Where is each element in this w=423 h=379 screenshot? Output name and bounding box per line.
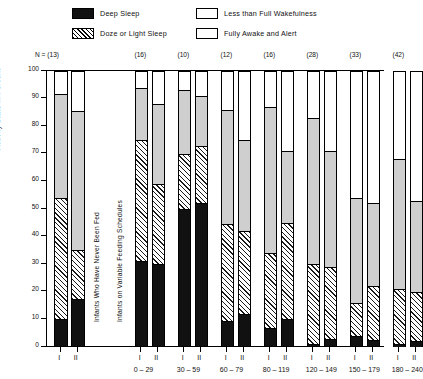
sample-size-label: (10) — [178, 52, 190, 59]
stacked-bar — [178, 71, 192, 347]
bar-segment-awake — [55, 71, 67, 94]
x-axis-sub-labels: IIIIIIIIIIIIIIIIIIIIIIII — [0, 354, 394, 366]
bar-segment-doze — [239, 231, 251, 314]
y-tick-label: 100 — [28, 66, 39, 73]
legend-swatch-less-icon — [196, 8, 218, 19]
bar-segment-doze — [72, 250, 84, 298]
legend-swatch-deep-icon — [72, 8, 94, 19]
sample-size-label: (28) — [307, 52, 319, 59]
bar-segment-doze — [196, 146, 208, 204]
y-tick-label: 70 — [32, 148, 39, 155]
x-tick-mark — [269, 347, 270, 352]
y-tick-90: 90 — [0, 98, 46, 99]
bar-segment-less — [153, 104, 165, 184]
x-sub-label-ii: II — [154, 354, 158, 361]
x-tick-mark — [77, 347, 78, 352]
x-tick-mark — [372, 347, 373, 352]
sample-size-label: (42) — [393, 52, 405, 59]
bar-segment-less — [411, 201, 423, 292]
x-sub-label-i: I — [268, 354, 270, 361]
chart-legend: Deep Sleep Doze or Light Sleep Less than… — [0, 6, 394, 48]
sample-size-label: (16) — [135, 52, 147, 59]
stacked-bar — [221, 71, 235, 347]
x-group-label: 150 – 179 — [349, 366, 380, 373]
bar-segment-less — [325, 151, 337, 267]
bar-segment-deep — [179, 209, 191, 347]
legend-label-less: Less than Full Wakefulness — [224, 10, 317, 17]
x-tick-mark — [329, 347, 330, 352]
x-tick-mark — [226, 347, 227, 352]
bar-segment-doze — [394, 289, 406, 344]
legend-swatch-doze-icon — [72, 28, 94, 39]
bar-segment-doze — [179, 154, 191, 209]
y-tick-50: 50 — [0, 208, 46, 209]
stacked-bar — [195, 71, 209, 347]
x-sub-label-ii: II — [74, 354, 78, 361]
x-sub-label-i: I — [354, 354, 356, 361]
bar-segment-awake — [265, 71, 277, 107]
bar-segment-deep — [239, 314, 251, 347]
y-tick-80: 80 — [0, 125, 46, 126]
bar-segment-awake — [368, 71, 380, 203]
x-group-label: 180 – 240 — [392, 366, 423, 373]
bar-segment-awake — [72, 71, 84, 111]
x-tick-mark — [286, 347, 287, 352]
x-group-label: 120 – 149 — [306, 366, 337, 373]
bar-segment-awake — [351, 71, 363, 198]
x-sub-label-i: I — [311, 354, 313, 361]
x-sub-label-i: I — [225, 354, 227, 361]
legend-item-deep-sleep: Deep Sleep — [72, 8, 140, 19]
bar-segment-doze — [55, 198, 67, 319]
bar-segment-deep — [282, 319, 294, 347]
stacked-bar — [307, 71, 321, 347]
x-tick-mark — [140, 347, 141, 352]
x-tick-mark — [200, 347, 201, 352]
bar-segment-less — [239, 140, 251, 231]
y-axis-title: Activity State in Percent — [0, 69, 1, 150]
y-tick-100: 100 — [0, 70, 46, 71]
bar-segment-deep — [153, 264, 165, 347]
x-sub-label-ii: II — [412, 354, 416, 361]
legend-label-doze: Doze or Light Sleep — [100, 30, 167, 37]
bar-segment-doze — [153, 184, 165, 264]
sample-size-row: N = (13)(16)(10)(12)(16)(28)(33)(42) — [0, 52, 394, 64]
bar-segment-deep — [72, 299, 84, 347]
bar-segment-awake — [239, 71, 251, 140]
x-tick-mark — [60, 347, 61, 352]
stacked-bar — [281, 71, 295, 347]
bar-segment-less — [136, 88, 148, 140]
bar-segment-awake — [179, 71, 191, 90]
x-group-label: 60 – 79 — [220, 366, 243, 373]
legend-label-awake: Fully Awake and Alert — [224, 30, 297, 37]
stacked-bar — [152, 71, 166, 347]
bar-segment-doze — [325, 267, 337, 339]
x-sub-label-ii: II — [369, 354, 373, 361]
bar-segment-awake — [153, 71, 165, 104]
bar-segment-doze — [351, 303, 363, 336]
y-tick-60: 60 — [0, 180, 46, 181]
y-tick-label: 10 — [32, 314, 39, 321]
bar-segment-deep — [136, 261, 148, 347]
bar-segment-doze — [308, 264, 320, 344]
y-tick-20: 20 — [0, 291, 46, 292]
sample-size-label: (16) — [264, 52, 276, 59]
legend-label-deep: Deep Sleep — [100, 10, 140, 17]
stacked-bar — [393, 71, 407, 347]
bar-segment-less — [72, 111, 84, 250]
x-sub-label-i: I — [58, 354, 60, 361]
bar-segment-awake — [196, 71, 208, 96]
y-tick-label: 50 — [32, 204, 39, 211]
legend-swatch-awake-icon — [196, 28, 218, 39]
x-sub-label-ii: II — [197, 354, 201, 361]
annotation-variable-feeding: Infants on Variable Feeding Schedules — [117, 200, 124, 322]
bar-segment-doze — [368, 286, 380, 340]
y-tick-label: 80 — [32, 121, 39, 128]
bar-segment-less — [308, 118, 320, 264]
y-tick-label: 40 — [32, 231, 39, 238]
legend-item-less-wakefulness: Less than Full Wakefulness — [196, 8, 317, 19]
bar-segment-awake — [222, 71, 234, 110]
bar-segment-less — [265, 107, 277, 253]
x-tick-mark — [355, 347, 356, 352]
bar-segment-less — [222, 110, 234, 225]
